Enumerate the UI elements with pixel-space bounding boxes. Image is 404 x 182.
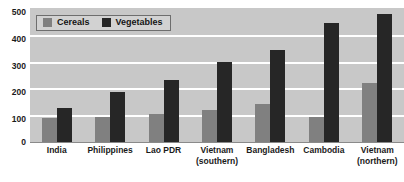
bar-vegetables: [270, 50, 285, 142]
bar-cereals: [149, 114, 164, 142]
bar-cereals: [255, 104, 270, 142]
y-tick-400: 400: [0, 35, 26, 44]
bar-cereals: [42, 118, 57, 142]
legend-item-vegetables: Vegetables: [102, 18, 163, 27]
bar-group: [202, 8, 232, 142]
bar-cereals: [202, 110, 217, 142]
y-tick-500: 500: [0, 8, 26, 17]
legend-swatch-cereals: [43, 18, 52, 27]
x-tick-label: Bangladesh: [244, 145, 297, 156]
bar-cereals: [95, 117, 110, 142]
bar-group: [255, 8, 285, 142]
bar-vegetables: [324, 23, 339, 142]
x-tick-label: India: [30, 145, 83, 156]
bar-cereals: [362, 83, 377, 142]
bar-vegetables: [164, 80, 179, 142]
bar-group: [309, 8, 339, 142]
bar-vegetables: [217, 62, 232, 142]
y-tick-0: 0: [0, 138, 26, 147]
x-axis-labels: IndiaPhilippinesLao PDRVietnam(southern)…: [30, 145, 404, 179]
bar-vegetables: [110, 92, 125, 142]
bar-cereals: [309, 117, 324, 142]
legend-item-cereals: Cereals: [43, 18, 90, 27]
cropped-top-text-strip: [30, 0, 404, 8]
bar-vegetables: [57, 108, 72, 142]
x-tick-label: Vietnam(southern): [190, 145, 243, 166]
x-tick-label: Lao PDR: [137, 145, 190, 156]
bar-group: [362, 8, 392, 142]
x-tick-label: Cambodia: [297, 145, 350, 156]
y-tick-300: 300: [0, 62, 26, 71]
x-axis-baseline: [30, 142, 404, 143]
bar-vegetables: [377, 14, 392, 142]
x-tick-label: Philippines: [83, 145, 136, 156]
bar-chart: 500 400 300 200 100 0 Cereals Vegetables…: [0, 0, 404, 182]
x-tick-label: Vietnam(northern): [351, 145, 404, 166]
legend-label-cereals: Cereals: [57, 18, 90, 27]
legend-label-vegetables: Vegetables: [116, 18, 163, 27]
legend: Cereals Vegetables: [36, 15, 171, 31]
y-tick-100: 100: [0, 115, 26, 124]
legend-swatch-vegetables: [102, 18, 111, 27]
y-tick-200: 200: [0, 88, 26, 97]
